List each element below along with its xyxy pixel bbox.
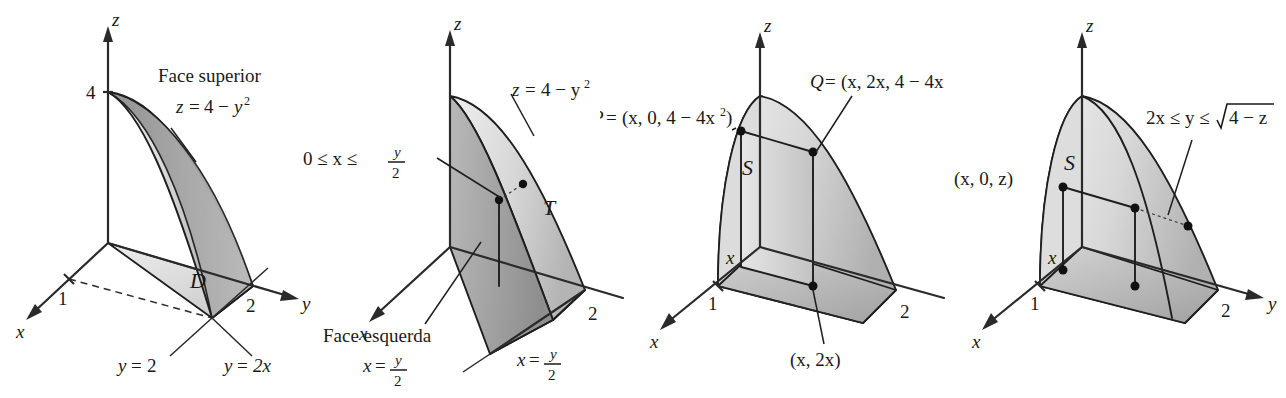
svg-text:2: 2 <box>584 77 590 91</box>
panel-2-region-T: 2 z x T z = 4 − y 2 0 ≤ x ≤ y 2 Face esq… <box>285 0 625 398</box>
point-x-0-z <box>1059 183 1068 192</box>
panel-1-domain-D: z y x 4 2 1 D Face superior z = 4 − y 2 … <box>0 0 320 398</box>
axis-label-x: x <box>15 321 25 342</box>
tick-label-x-1: 1 <box>708 293 718 314</box>
axis-label-z: z <box>453 13 462 34</box>
label-surface-equation: z = 4 − y 2 <box>511 77 590 100</box>
point-middle <box>1131 204 1140 213</box>
label-point-Q: Q = (x, 2x, 4 − 4x 2 ) <box>810 69 946 93</box>
label-point-x-0-z: (x, 0, z) <box>954 168 1013 190</box>
panel-3-slice-S-vertical: z x 1 2 S x P = (x, 0, 4 − 4x 2 ) Q = (x… <box>600 0 946 398</box>
svg-text:0 ≤ x ≤: 0 ≤ x ≤ <box>303 148 357 169</box>
label-y-range: 2x ≤ y ≤ 4 − z <box>1146 104 1274 128</box>
label-x-range: 0 ≤ x ≤ y 2 <box>303 144 405 181</box>
tick-label-x-1: 1 <box>1030 293 1040 314</box>
point-upper <box>519 180 527 188</box>
svg-text:y: y <box>232 96 243 117</box>
tick-label-x-1: 1 <box>58 288 68 309</box>
axis-label-x: x <box>649 331 659 352</box>
label-face-superior-line2: z = 4 − y 2 <box>175 94 250 117</box>
label-face-esquerda-line2: x = y 2 <box>362 352 407 389</box>
label-y-equals-2: y = 2 <box>116 355 157 376</box>
axis-label-y: y <box>1266 293 1277 314</box>
leader-surface-eq <box>511 94 534 136</box>
y-axis-arrow <box>1245 289 1264 300</box>
panel-4-slice-S-horizontal: z y x 1 2 S x (x, 0, z) 2x ≤ y ≤ 4 − z <box>940 0 1286 398</box>
svg-text:Q: Q <box>810 71 824 92</box>
svg-text:=: = <box>237 355 248 376</box>
svg-text:y: y <box>548 346 557 362</box>
svg-text:2: 2 <box>392 165 400 181</box>
svg-text:=: = <box>375 355 386 376</box>
svg-text:=: = <box>189 96 200 117</box>
point-x-2x-base <box>809 282 818 291</box>
svg-text:4 − y: 4 − y <box>541 79 581 100</box>
point-base-right <box>1131 282 1140 291</box>
svg-text:=: = <box>606 107 617 128</box>
svg-text:4: 4 <box>204 96 214 117</box>
svg-text:x: x <box>362 355 372 376</box>
region-label-D: D <box>189 268 206 293</box>
tick-label-y-2: 2 <box>246 295 256 316</box>
tick-label-y-2: 2 <box>588 303 598 324</box>
label-face-superior-line1: Face superior <box>158 65 262 86</box>
x-axis-arrow <box>982 313 998 330</box>
svg-text:y: y <box>392 144 401 160</box>
label-plane-x-equals-y-over-2: x = y 2 <box>516 346 561 383</box>
label-point-x-2x: (x, 2x) <box>790 349 841 371</box>
svg-text:): ) <box>726 107 732 129</box>
region-label-T: T <box>543 195 557 220</box>
svg-text:−: − <box>218 96 229 117</box>
svg-text:P: P <box>600 107 604 128</box>
point-P <box>737 127 746 136</box>
region-label-S: S <box>742 155 753 180</box>
svg-text:4 − z: 4 − z <box>1229 107 1267 128</box>
figure-root: z y x 4 2 1 D Face superior z = 4 − y 2 … <box>0 0 1286 398</box>
svg-text:2: 2 <box>394 373 402 389</box>
axis-label-x: x <box>971 331 981 352</box>
svg-text:x: x <box>516 349 526 370</box>
svg-text:y: y <box>222 355 233 376</box>
svg-text:(x, 0, 4 − 4x: (x, 0, 4 − 4x <box>622 107 716 129</box>
svg-text:2: 2 <box>147 355 157 376</box>
leader-point-Q <box>816 96 852 152</box>
tick-label-y-2: 2 <box>1221 300 1231 321</box>
svg-text:=: = <box>529 349 540 370</box>
svg-text:=: = <box>525 79 536 100</box>
region-label-S: S <box>1064 150 1075 175</box>
x-axis <box>34 243 108 312</box>
leader-point-P <box>732 128 736 130</box>
edge-label-x: x <box>725 247 735 268</box>
svg-text:(x, 2x, 4 − 4x: (x, 2x, 4 − 4x <box>841 71 944 93</box>
label-y-equals-2x: y = 2x <box>222 355 272 376</box>
svg-text:z: z <box>175 96 184 117</box>
svg-text:y: y <box>116 355 127 376</box>
axis-label-z: z <box>1085 15 1094 36</box>
axis-label-z: z <box>763 15 772 36</box>
point-right-end <box>1184 222 1193 231</box>
line-y-equals-2 <box>170 318 212 356</box>
line-y-equals-2x-lower <box>212 318 252 356</box>
svg-text:2x: 2x <box>253 355 272 376</box>
edge-label-x: x <box>1047 247 1057 268</box>
svg-text:2: 2 <box>244 94 250 108</box>
point-base-left <box>1059 266 1068 275</box>
svg-text:y: y <box>393 352 402 368</box>
svg-text:=: = <box>825 71 836 92</box>
x-axis-arrow <box>660 313 676 330</box>
svg-text:2x ≤ y ≤: 2x ≤ y ≤ <box>1146 107 1210 128</box>
line-x-equals-y-over-2-ext <box>463 354 490 372</box>
svg-text:z: z <box>511 79 520 100</box>
tick-label-y-2: 2 <box>900 301 910 322</box>
axis-label-z: z <box>111 9 120 30</box>
svg-text:2: 2 <box>548 367 556 383</box>
label-face-esquerda-line1: Face esquerda <box>323 325 432 346</box>
tick-label-z-4: 4 <box>86 82 96 103</box>
svg-text:=: = <box>131 355 142 376</box>
label-point-P: P = (x, 0, 4 − 4x 2 ) <box>600 105 732 129</box>
